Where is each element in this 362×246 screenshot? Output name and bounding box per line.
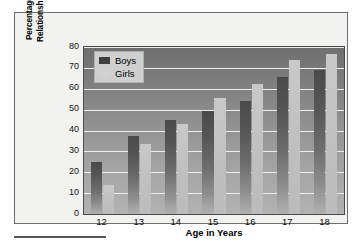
- bar-boys-age-13: [128, 136, 139, 214]
- bar-boys-age-17: [277, 77, 288, 214]
- legend-item-boys: Boys: [99, 55, 136, 66]
- chart-figure-frame: Percentage Reporting a Romantic Relation…: [14, 12, 348, 224]
- bar-group-age-17: [270, 47, 307, 214]
- bar-girls-age-15: [214, 98, 225, 214]
- y-tick-label-50: 50: [59, 104, 79, 113]
- bar-girls-age-18: [326, 54, 337, 214]
- bar-girls-age-16: [252, 84, 263, 214]
- x-tick-label-18: 18: [306, 216, 343, 227]
- plot-area: Boys Girls: [83, 46, 345, 215]
- y-tick-label-0: 0: [59, 209, 79, 218]
- y-tick-label-20: 20: [59, 167, 79, 176]
- bar-boys-age-12: [91, 162, 102, 214]
- y-tick-label-10: 10: [59, 188, 79, 197]
- legend-label-boys: Boys: [115, 56, 136, 66]
- caption-rule: [14, 236, 106, 238]
- bar-group-age-15: [195, 47, 232, 214]
- y-axis-tick-labels: 01020304050607080: [59, 46, 79, 216]
- bar-boys-age-14: [165, 120, 176, 214]
- bar-group-age-16: [233, 47, 270, 214]
- x-tick-label-17: 17: [269, 216, 306, 227]
- y-tick-label-80: 80: [59, 42, 79, 51]
- y-tick-label-60: 60: [59, 83, 79, 92]
- bar-group-age-14: [158, 47, 195, 214]
- x-tick-label-15: 15: [194, 216, 231, 227]
- x-tick-label-14: 14: [157, 216, 194, 227]
- legend-swatch-girls-icon: [99, 70, 110, 77]
- legend-label-girls: Girls: [115, 69, 135, 79]
- x-tick-label-13: 13: [120, 216, 157, 227]
- bar-girls-age-14: [177, 124, 188, 214]
- y-axis-title: Percentage Reporting a Romantic Relation…: [21, 0, 49, 63]
- bar-boys-age-16: [240, 101, 251, 214]
- y-tick-label-70: 70: [59, 62, 79, 71]
- y-tick-label-30: 30: [59, 146, 79, 155]
- legend-swatch-boys-icon: [99, 57, 110, 64]
- bar-group-age-18: [307, 47, 344, 214]
- bar-girls-age-12: [103, 185, 114, 214]
- bar-girls-age-17: [289, 60, 300, 214]
- y-tick-label-40: 40: [59, 125, 79, 134]
- x-tick-label-16: 16: [232, 216, 269, 227]
- bar-girls-age-13: [140, 144, 151, 214]
- x-tick-label-12: 12: [83, 216, 120, 227]
- bar-boys-age-18: [314, 70, 325, 214]
- x-axis-title: Age in Years: [83, 227, 345, 238]
- chart-legend: Boys Girls: [94, 51, 144, 83]
- bar-boys-age-15: [202, 111, 213, 214]
- legend-item-girls: Girls: [99, 68, 136, 79]
